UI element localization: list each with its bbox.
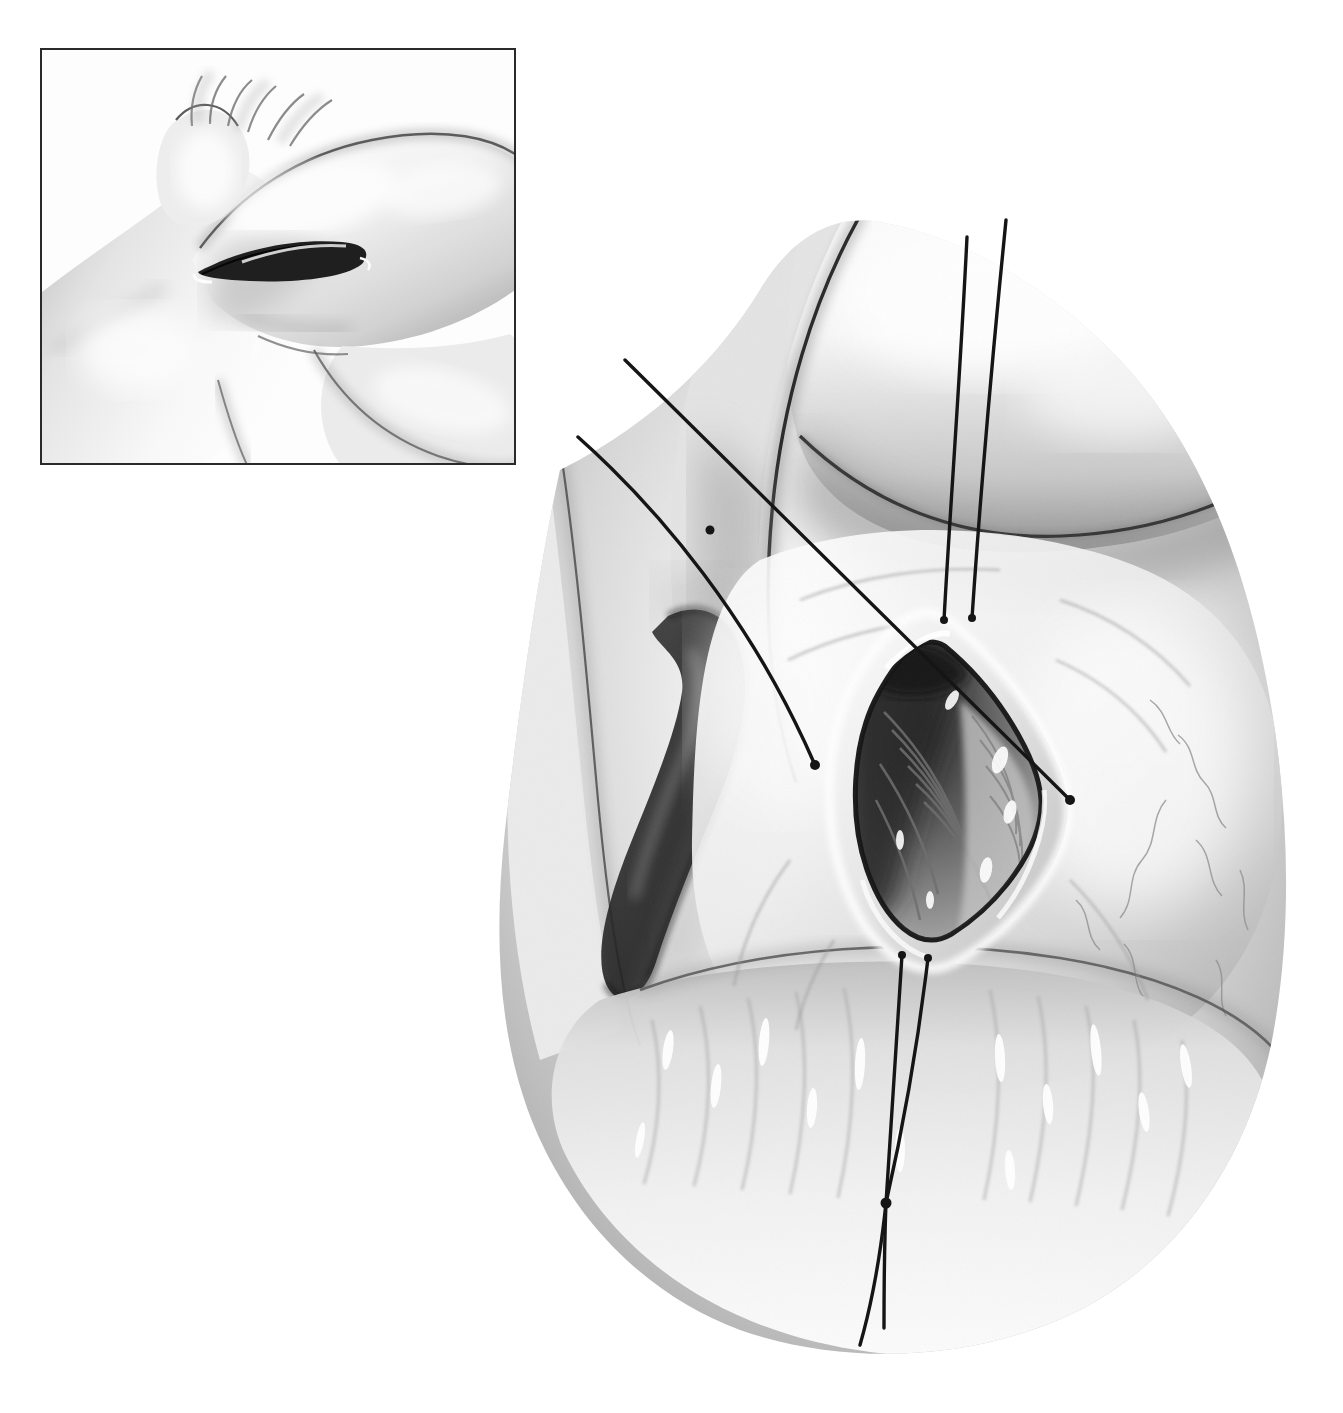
knot-inferior-suture — [881, 1198, 892, 1209]
knot-thread-crossing-upper — [706, 526, 715, 535]
inset-drawing — [42, 50, 516, 465]
external-view-inset — [40, 48, 516, 465]
illustration-canvas — [0, 0, 1343, 1413]
